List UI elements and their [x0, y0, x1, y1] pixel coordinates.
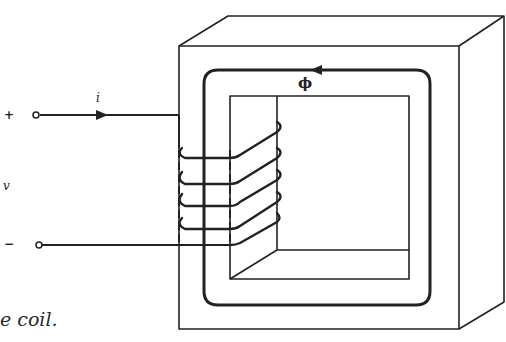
- core-window: [230, 96, 409, 279]
- figure-caption: e coil.: [0, 310, 58, 329]
- plus-terminal-icon[interactable]: [33, 112, 39, 118]
- core-right-face: [459, 16, 504, 329]
- flux-path: [204, 70, 430, 305]
- plus-terminal-label: +: [4, 109, 14, 121]
- minus-terminal-icon[interactable]: [36, 242, 42, 248]
- current-arrow-icon: [96, 110, 108, 120]
- core-window-depth: [277, 96, 409, 250]
- core-front-face: [179, 46, 459, 329]
- flux-label: ϕ: [298, 76, 312, 91]
- voltage-label: v: [3, 180, 10, 192]
- minus-terminal-label: −: [4, 238, 14, 250]
- current-label: i: [96, 92, 100, 104]
- core-diagram: [0, 0, 506, 342]
- core-top-face: [179, 16, 504, 46]
